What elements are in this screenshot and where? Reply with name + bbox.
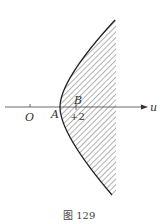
axis-label-u: u [150,101,157,114]
figure-caption: 图 129 [63,210,95,221]
origin-label: O [25,111,34,124]
tick-value-label: +2 [70,111,85,122]
point-a-label: A [50,108,59,121]
axis-arrow-icon [141,105,148,110]
hatched-region [55,15,120,200]
hyperbola-region-diagram: u O A B +2 图 129 [0,0,164,224]
point-b-label: B [73,94,82,107]
